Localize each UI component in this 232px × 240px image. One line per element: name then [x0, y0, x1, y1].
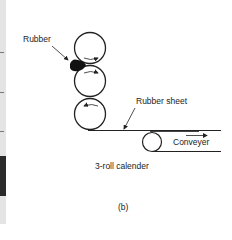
top-roll-rotation-arrow — [84, 58, 98, 60]
conveyer-roll — [143, 133, 162, 152]
figure-caption: 3-roll calender — [95, 161, 149, 171]
rubber-label: Rubber — [23, 34, 51, 44]
bottom-roll-rotation-arrow — [84, 105, 98, 107]
bottom-roll — [75, 99, 106, 130]
rubber-leader-arrow — [52, 46, 68, 60]
middle-roll-rotation-arrow — [84, 72, 98, 74]
conveyer-label: Conveyer — [173, 137, 209, 147]
panel-label: (b) — [118, 202, 128, 212]
top-roll — [75, 33, 106, 64]
rubber-sheet-label: Rubber sheet — [136, 96, 187, 106]
rubber-blob — [70, 60, 86, 72]
rubber-sheet-leader-arrow — [124, 108, 135, 129]
